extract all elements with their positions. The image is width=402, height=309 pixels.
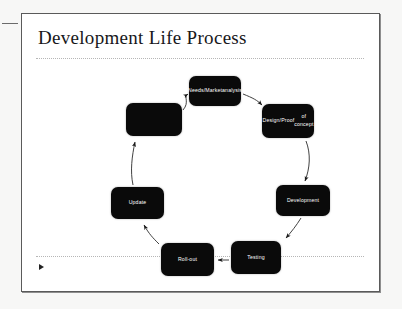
node-label: Design/Proof xyxy=(263,117,295,125)
node-blank[interactable] xyxy=(126,103,182,136)
arrow-needs-to-design xyxy=(243,94,262,105)
play-triangle-icon xyxy=(39,264,44,270)
arrow-rollout-to-update xyxy=(144,225,159,244)
presentation-slide: Development Life Process Needs/Marketana… xyxy=(21,13,380,292)
node-label: Update xyxy=(129,199,147,207)
page-edge-dash xyxy=(2,23,18,24)
node-update[interactable]: Update xyxy=(111,187,164,219)
arrow-update-to-blank xyxy=(132,142,135,185)
node-label: of concept xyxy=(294,113,313,129)
arrow-blank-to-needs xyxy=(183,94,188,110)
node-label: Testing xyxy=(247,254,265,262)
node-design[interactable]: Design/Proofof concept xyxy=(262,104,314,138)
page-title: Development Life Process xyxy=(38,27,247,49)
arrow-development-to-testing xyxy=(286,218,301,238)
cycle-diagram: Needs/MarketanalysisDesign/Proofof conce… xyxy=(22,58,379,256)
node-label: Roll-out xyxy=(178,256,197,264)
node-testing[interactable]: Testing xyxy=(231,241,281,274)
node-needs[interactable]: Needs/Marketanalysis xyxy=(189,76,241,106)
node-label: Development xyxy=(287,197,319,205)
node-label: Needs/Market xyxy=(188,87,222,95)
node-development[interactable]: Development xyxy=(276,185,330,216)
node-rollout[interactable]: Roll-out xyxy=(161,243,214,276)
node-label: analysis xyxy=(222,87,242,95)
arrow-design-to-development xyxy=(305,141,309,181)
